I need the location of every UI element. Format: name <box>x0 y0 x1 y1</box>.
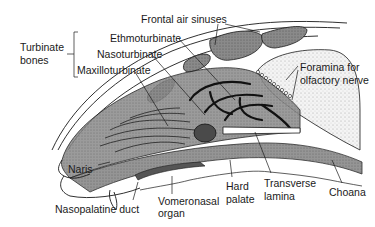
label-transverse-lamina-2: lamina <box>264 190 295 202</box>
label-nasopalatine-duct: Nasopalatine duct <box>55 203 139 215</box>
label-hard-palate-1: Hard <box>226 180 249 192</box>
transverse-lamina <box>223 127 300 134</box>
label-frontal-air-sinuses: Frontal air sinuses <box>141 13 227 25</box>
label-ethmoturbinate: Ethmoturbinate <box>110 32 181 44</box>
label-naris: Naris <box>68 163 93 175</box>
nasal-cavity-diagram <box>0 0 375 227</box>
label-vomeronasal-1: Vomeronasal <box>158 195 219 207</box>
label-transverse-lamina-1: Transverse <box>264 177 316 189</box>
turbinate-body <box>194 124 216 142</box>
label-vomeronasal-2: organ <box>158 207 185 219</box>
label-hard-palate-2: palate <box>226 193 255 205</box>
label-maxilloturbinate: Maxilloturbinate <box>77 64 151 76</box>
label-choana: Choana <box>329 186 366 198</box>
label-foramina-1: Foramina for <box>300 61 360 73</box>
label-foramina-2: olfactory nerve <box>300 74 369 86</box>
label-turbinate-bones-1: Turbinate <box>20 41 64 53</box>
label-turbinate-bones-2: bones <box>20 54 49 66</box>
label-nasoturbinate: Nasoturbinate <box>97 48 162 60</box>
